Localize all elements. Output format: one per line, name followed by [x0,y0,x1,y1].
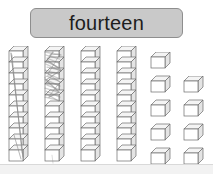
loose-column-left[interactable] [150,52,175,168]
cube-front-face [151,153,165,164]
rod-1[interactable] [8,46,35,167]
cube-front-face [184,105,198,116]
cube-front-face [184,81,198,92]
cube-front-face [151,81,165,92]
unit-cube [184,124,203,140]
cube-front-face [151,129,165,140]
cube-front-face [81,150,95,161]
unit-cube [151,100,170,116]
unit-cube [184,148,203,164]
unit-cube [184,100,203,116]
cube-front-face [151,105,165,116]
worksheet-canvas: fourteen [0,0,213,174]
number-word-label: fourteen [69,13,144,33]
loose-column-right[interactable] [183,76,208,168]
number-word-box: fourteen [30,8,183,38]
cube-front-face [151,57,165,68]
cube-front-face [184,129,198,140]
cube-front-face [184,153,198,164]
cube-front-face [117,150,131,161]
rod-3[interactable] [80,46,107,167]
unit-cube [81,145,100,161]
unit-cube [151,148,170,164]
unit-cube [151,124,170,140]
unit-cube [9,145,28,161]
unit-cube [117,145,136,161]
bottom-strip [0,164,213,174]
unit-cube [151,76,170,92]
rod-4[interactable] [116,46,143,167]
rod-2[interactable] [44,46,71,167]
unit-cube [184,76,203,92]
unit-cube [45,145,64,161]
base-ten-blocks-area [0,46,213,164]
unit-cube [151,52,170,68]
